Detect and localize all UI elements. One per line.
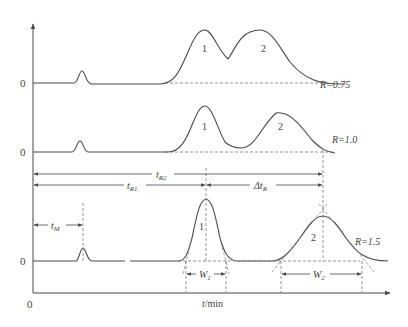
- peak-label-1-1: 1: [202, 43, 207, 54]
- origin-label: 0: [27, 298, 33, 310]
- resolution-label-2: R=1.0: [331, 134, 357, 145]
- resolution-label-3: R=1.5: [354, 236, 380, 247]
- peak-label-2-2: 2: [278, 121, 283, 132]
- peak-label-2-1: 1: [202, 121, 207, 132]
- trace-r15-curve: [33, 199, 388, 261]
- trace-r10-curve: [33, 106, 335, 153]
- baseline-label-3: 0: [20, 255, 26, 267]
- peak-label-3-2: 2: [311, 232, 316, 243]
- x-axis-label: t/min: [202, 298, 223, 309]
- chromatogram-diagram: 0 0 0 0 1 2 R=0.75 1 2 R=1.0 1 2 R=1.5 t…: [0, 0, 408, 327]
- resolution-label-1: R=0.75: [319, 79, 350, 90]
- trace-r10: [33, 106, 335, 153]
- trace-r15: [33, 199, 388, 274]
- peak-label-1-2: 2: [261, 43, 266, 54]
- trace-r075: [33, 30, 345, 84]
- peak-label-3-1: 1: [199, 221, 204, 232]
- trace-r075-curve: [33, 30, 345, 84]
- baseline-label-1: 0: [20, 77, 26, 89]
- baseline-label-2: 0: [20, 146, 26, 158]
